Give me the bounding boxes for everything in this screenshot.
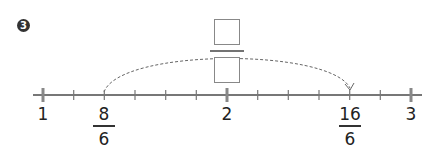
label-start: 1: [28, 105, 58, 123]
fraction-label-16-6: 16 6: [335, 105, 365, 148]
fraction-bar: [93, 125, 115, 127]
answer-numerator-box[interactable]: [214, 19, 240, 45]
denominator: 6: [335, 130, 365, 148]
denominator: 6: [89, 130, 119, 148]
answer-denominator-box[interactable]: [214, 57, 240, 83]
label-end: 3: [396, 105, 426, 123]
numerator: 8: [89, 105, 119, 123]
fraction-label-8-6: 8 6: [89, 105, 119, 148]
fraction-bar: [339, 125, 361, 127]
label-mid: 2: [212, 105, 242, 123]
numerator: 16: [335, 105, 365, 123]
